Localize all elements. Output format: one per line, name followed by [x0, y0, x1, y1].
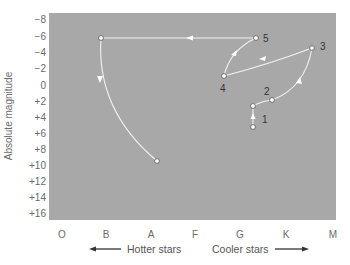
evolution-track — [101, 38, 312, 161]
point-3 — [310, 46, 315, 51]
point-label-4: 4 — [220, 83, 226, 94]
point-label-3: 3 — [320, 41, 326, 52]
point-label-5: 5 — [263, 33, 269, 44]
cooler-arrow-icon — [275, 247, 309, 252]
track-overlay: 1 2 3 4 5 — [0, 0, 350, 265]
point-5 — [254, 36, 259, 41]
hr-diagram: Absolute magnitude −8 −6 −4 −2 0 +2 +4 +… — [0, 0, 350, 265]
track-arrowheads — [97, 36, 302, 120]
point-1 — [251, 104, 256, 109]
hotter-arrow-icon — [89, 247, 121, 252]
point-b — [99, 36, 104, 41]
point-2 — [270, 98, 275, 103]
point-end — [155, 159, 160, 164]
point-label-1: 1 — [262, 114, 268, 125]
track-points — [99, 36, 315, 164]
point-start — [251, 125, 256, 130]
point-4 — [222, 74, 227, 79]
point-label-2: 2 — [264, 86, 270, 97]
